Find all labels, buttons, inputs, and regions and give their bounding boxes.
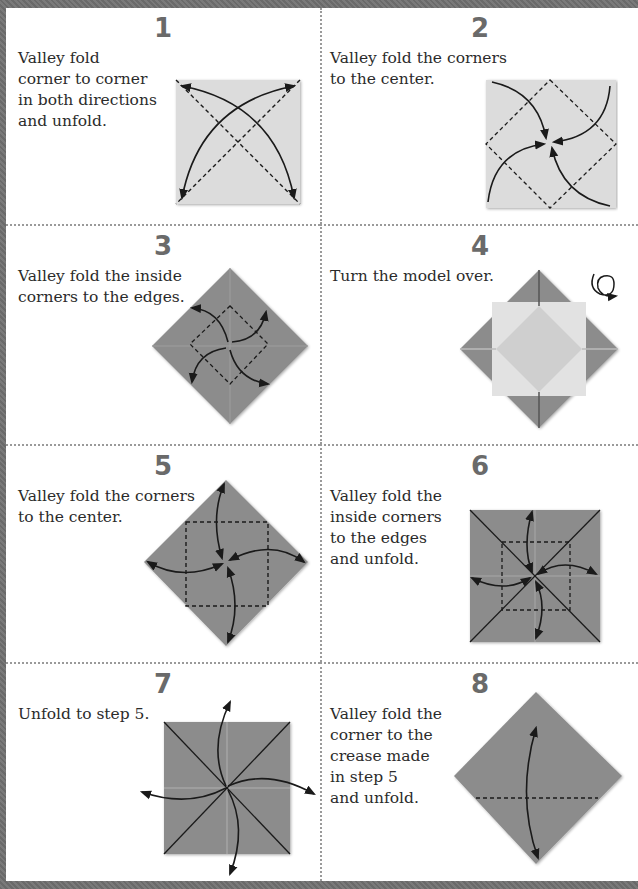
step-number: 3 <box>6 232 320 260</box>
step-8: 8 Valley fold the corner to the crease m… <box>320 662 638 881</box>
step-4: 4 Turn the model over. <box>320 224 638 444</box>
step-1: 1 Valley fold corner to corner in both d… <box>6 8 320 224</box>
square-inside-corners-unfold-icon <box>464 506 606 646</box>
step-instruction: Unfold to step 5. <box>18 704 149 725</box>
step-7: 7 Unfold to step 5. <box>6 662 320 881</box>
step-6: 6 Valley fold the inside corners to the … <box>320 444 638 662</box>
step-instruction: Valley fold the corners to the center. <box>330 48 507 90</box>
diamond-corner-to-crease-icon <box>450 688 626 868</box>
turn-over-icon <box>586 270 622 302</box>
instruction-sheet: 1 Valley fold corner to corner in both d… <box>6 8 638 881</box>
step-instruction: Valley fold the inside corners to the ed… <box>330 486 442 570</box>
step-5: 5 Valley fold the corners to the center. <box>6 444 320 662</box>
step-number: 5 <box>6 452 320 480</box>
square-corners-to-center-icon <box>482 72 618 212</box>
step-number: 1 <box>6 14 320 42</box>
step-instruction: Valley fold corner to corner in both dir… <box>18 48 157 132</box>
step-number: 4 <box>322 232 638 260</box>
step-3: 3 Valley fold the inside corners to the … <box>6 224 320 444</box>
step-number: 7 <box>6 670 320 698</box>
step-2: 2 Valley fold the corners to the center. <box>320 8 638 224</box>
diamond-corners-to-center-icon <box>142 478 312 650</box>
step-number: 6 <box>322 452 638 480</box>
diamond-inside-corners-icon <box>148 264 312 428</box>
step-number: 2 <box>322 14 638 42</box>
step-instruction: Valley fold the corner to the crease mad… <box>330 704 442 809</box>
square-diagonal-creases-icon <box>170 74 306 210</box>
square-unfold-icon <box>138 698 320 878</box>
